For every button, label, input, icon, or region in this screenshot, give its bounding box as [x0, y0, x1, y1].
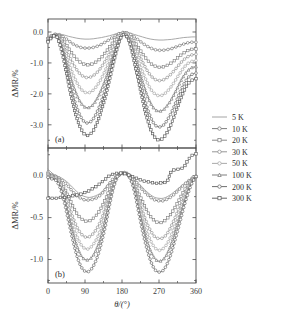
marker	[98, 58, 101, 61]
marker	[104, 97, 107, 100]
marker	[179, 218, 182, 221]
marker	[96, 246, 99, 249]
amr-angular-dependence-chart: 0.0-1.0-2.0-3.0(a)ΔMR/%0.0-0.5-1.0(b)ΔMR…	[0, 0, 283, 321]
figure-container: 0.0-1.0-2.0-3.0(a)ΔMR/%0.0-0.5-1.0(b)ΔMR…	[0, 0, 283, 321]
x-axis: 090180270360θ/(°)	[46, 287, 202, 309]
y-tick-label: -1.0	[30, 59, 43, 68]
marker	[149, 258, 152, 261]
marker	[71, 70, 74, 73]
marker	[130, 181, 133, 184]
marker	[63, 60, 65, 63]
marker	[102, 232, 105, 235]
marker	[80, 243, 83, 246]
marker	[97, 252, 100, 255]
marker	[167, 179, 170, 182]
marker	[47, 197, 50, 200]
marker	[90, 245, 93, 248]
marker	[99, 244, 102, 247]
marker	[148, 125, 151, 128]
marker	[109, 45, 112, 48]
marker	[110, 37, 113, 40]
marker	[145, 229, 148, 232]
marker	[192, 179, 195, 182]
marker	[162, 49, 165, 52]
marker	[75, 68, 78, 71]
marker	[187, 190, 190, 193]
legend-item-5K[interactable]: 5 K	[212, 113, 244, 122]
marker	[133, 189, 136, 192]
marker	[92, 46, 95, 49]
marker	[174, 102, 177, 105]
legend-item-30K[interactable]: 30 K	[212, 148, 248, 157]
marker	[172, 246, 175, 249]
marker	[104, 200, 107, 203]
marker	[76, 255, 79, 258]
legend-marker	[218, 197, 221, 200]
marker	[139, 221, 142, 224]
x-tick-label: 0	[46, 287, 50, 296]
marker	[169, 196, 172, 199]
marker	[114, 52, 117, 55]
marker	[98, 194, 101, 197]
marker	[178, 199, 181, 202]
marker	[122, 33, 125, 36]
marker	[157, 199, 160, 202]
marker	[69, 66, 72, 69]
marker	[150, 231, 153, 234]
marker	[128, 174, 131, 177]
marker	[88, 47, 91, 50]
y-axis-label: ΔMR/%	[10, 201, 20, 229]
marker	[104, 178, 107, 181]
marker	[195, 65, 198, 68]
marker	[165, 120, 168, 123]
marker	[150, 196, 153, 199]
marker	[170, 86, 173, 89]
marker	[177, 64, 180, 67]
marker	[143, 104, 146, 107]
marker	[96, 256, 99, 259]
marker	[184, 202, 187, 205]
legend-item-10K[interactable]: 10 K	[212, 125, 248, 134]
marker	[146, 233, 149, 236]
marker	[100, 240, 103, 243]
marker	[195, 77, 198, 80]
marker	[158, 49, 161, 52]
marker	[140, 225, 143, 228]
marker	[87, 190, 90, 193]
marker	[76, 45, 79, 48]
marker	[66, 77, 69, 80]
marker	[116, 48, 119, 51]
marker	[112, 187, 115, 190]
legend-item-300K[interactable]: 300 K	[212, 194, 252, 203]
marker	[72, 195, 75, 198]
marker	[87, 64, 90, 67]
marker	[70, 51, 73, 54]
marker	[76, 226, 79, 229]
marker	[141, 96, 144, 99]
marker	[80, 193, 83, 196]
legend-label-text: 50 K	[232, 159, 248, 168]
legend-item-20K[interactable]: 20 K	[212, 136, 248, 145]
marker	[140, 92, 143, 95]
marker	[180, 61, 183, 64]
marker	[177, 168, 180, 171]
marker	[184, 164, 187, 167]
marker	[73, 88, 76, 91]
marker	[135, 181, 138, 184]
marker	[175, 46, 178, 49]
marker	[162, 78, 165, 81]
marker	[167, 250, 170, 253]
legend-item-100K[interactable]: 100 K	[212, 171, 252, 180]
legend-item-50K[interactable]: 50 K	[212, 159, 248, 168]
marker	[75, 113, 78, 116]
marker	[97, 117, 100, 120]
marker	[116, 175, 119, 178]
marker	[101, 180, 104, 183]
legend-item-200K[interactable]: 200 K	[212, 183, 252, 192]
legend-marker	[218, 150, 221, 153]
marker	[183, 51, 186, 54]
marker	[69, 57, 72, 60]
marker	[108, 175, 111, 178]
marker	[79, 197, 82, 200]
marker	[90, 132, 93, 135]
